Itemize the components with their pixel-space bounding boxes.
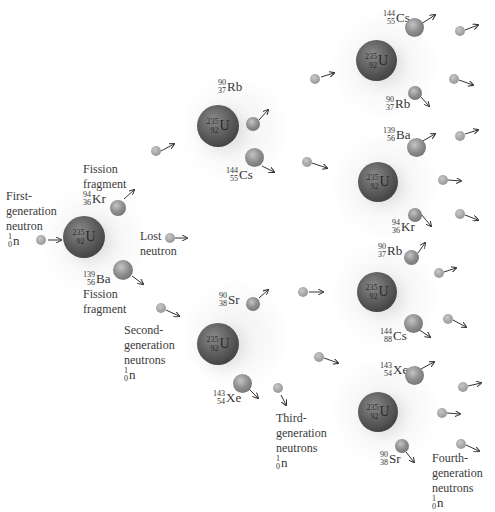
neutron-gen4 (434, 268, 444, 278)
neutron-gen2 (156, 303, 166, 313)
fragment-sr (246, 297, 260, 311)
fission-chain-diagram: First- generation neutron 10 n 23592U Fi… (0, 0, 495, 512)
neutron-gen1 (36, 235, 46, 245)
isotope-ba-139: 13956 Ba (383, 127, 410, 143)
fragment-ba (113, 260, 133, 280)
neutron-gen3 (273, 383, 283, 393)
isotope-sr-90: 9038 Sr (380, 451, 401, 467)
isotope-rb-90: 9037 Rb (218, 79, 242, 95)
neutron-gen4 (437, 408, 447, 418)
isotope-kr-94: 9436 Kr (392, 219, 415, 235)
uranium-nucleus-gen2-top: 23592U (197, 105, 239, 147)
neutron-gen4 (455, 26, 465, 36)
fragment-cs (404, 314, 423, 333)
label-first-generation: First- generation neutron (6, 189, 57, 234)
isotope-cs-144: 14455 Cs (226, 167, 253, 183)
fragment-rb (246, 117, 260, 131)
neutron-symbol-gen1: 10 n (8, 233, 20, 249)
label-third-generation: Third- generation neutrons (276, 411, 327, 456)
uranium-nucleus-gen3-a: 23592U (356, 40, 397, 81)
neutron-gen2 (151, 146, 161, 156)
neutron-symbol-gen2: 10 n (124, 367, 136, 383)
isotope-ba-139: 13956 Ba (83, 271, 110, 287)
neutron-gen3 (298, 287, 308, 297)
uranium-nucleus-gen3-d: 23592U (358, 392, 398, 432)
uranium-nucleus-gen3-c: 23592U (357, 272, 397, 312)
isotope-cs-144: 14488 Cs (380, 328, 407, 344)
fragment-cs (245, 148, 264, 167)
neutron-gen3 (310, 74, 320, 84)
fragment-kr (110, 200, 126, 216)
isotope-rb-90: 9037 Rb (386, 96, 410, 112)
neutron-gen4 (455, 131, 465, 141)
label-second-generation: Second- generation neutrons (124, 323, 175, 368)
neutron-gen4 (438, 175, 448, 185)
neutron-lost (165, 233, 175, 243)
label-fission-fragment-top: Fission fragment (83, 162, 126, 192)
uranium-nucleus-gen3-b: 23592U (358, 162, 398, 202)
neutron-gen4 (458, 382, 468, 392)
uranium-nucleus-gen2-bottom: 23592U (197, 323, 239, 365)
fragment-cs (405, 18, 424, 37)
isotope-sr-90: 9038 Sr (219, 292, 240, 308)
neutron-symbol-gen3: 10 n (276, 455, 288, 471)
neutron-gen3 (302, 157, 312, 167)
label-fourth-generation: Fourth- generation neutrons (432, 451, 483, 496)
neutron-gen4 (455, 209, 465, 219)
isotope-kr-94: 9436 Kr (83, 191, 106, 207)
neutron-gen4 (443, 314, 453, 324)
neutron-gen3 (314, 352, 324, 362)
fragment-ba (407, 138, 426, 157)
isotope-xe-143: 14354 Xe (380, 362, 408, 378)
neutron-gen4 (449, 74, 459, 84)
fragment-xe (405, 366, 424, 385)
isotope-xe-143: 14354 Xe (213, 390, 241, 406)
neutron-gen4 (456, 439, 466, 449)
neutron-symbol-gen4: 10 n (432, 495, 444, 511)
uranium-nucleus-gen1: 23592U (63, 216, 105, 258)
label-fission-fragment-bottom: Fission fragment (83, 287, 126, 317)
fragment-rb (404, 250, 419, 265)
isotope-rb-90: 9037 Rb (378, 243, 402, 259)
